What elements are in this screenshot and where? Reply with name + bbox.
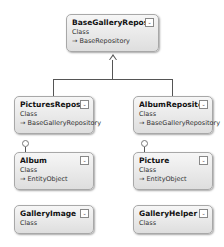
collapse-toggle-icon[interactable]: ⌄ xyxy=(80,100,89,109)
class-kind: Class xyxy=(20,166,88,175)
inheritance-arrow-icon xyxy=(109,54,117,60)
class-kind: Class xyxy=(139,110,207,119)
class-base: → BaseGalleryRepository xyxy=(139,119,207,128)
class-box-album-repository[interactable]: AlbumRepository Class → BaseGalleryRepos… xyxy=(133,96,213,134)
inheritance-line-right xyxy=(172,79,173,96)
collapse-toggle-icon[interactable]: ⌄ xyxy=(145,18,154,27)
class-name: PicturesReposit... xyxy=(20,100,88,110)
inheritance-line-horizontal xyxy=(53,79,173,80)
collapse-toggle-icon[interactable]: ⌄ xyxy=(80,156,89,165)
inheritance-line-stem xyxy=(112,59,113,79)
class-box-picture[interactable]: Picture Class → EntityObject ⌄ xyxy=(133,152,213,190)
class-name: AlbumRepository xyxy=(139,100,207,110)
class-box-base-gallery-repository[interactable]: BaseGalleryRepository Class → BaseReposi… xyxy=(66,14,159,52)
collapse-toggle-icon[interactable]: ⌄ xyxy=(199,209,208,218)
class-box-pictures-repository[interactable]: PicturesReposit... Class → BaseGalleryRe… xyxy=(14,96,94,134)
class-name: Picture xyxy=(139,156,207,166)
interface-lollipop-icon xyxy=(22,140,29,147)
class-name: Album xyxy=(20,156,88,166)
class-name: GalleryHelper xyxy=(139,209,207,219)
collapse-toggle-icon[interactable]: ⌄ xyxy=(80,209,89,218)
class-base: → BaseRepository xyxy=(72,37,153,46)
class-base: → EntityObject xyxy=(20,175,88,184)
class-base: → EntityObject xyxy=(139,175,207,184)
interface-lollipop-icon xyxy=(141,140,148,147)
class-name: BaseGalleryRepository xyxy=(72,18,153,28)
class-name: GalleryImage xyxy=(20,209,88,219)
collapse-toggle-icon[interactable]: ⌄ xyxy=(199,156,208,165)
class-box-gallery-image[interactable]: GalleryImage Class ⌄ xyxy=(14,205,94,234)
collapse-toggle-icon[interactable]: ⌄ xyxy=(199,100,208,109)
class-box-gallery-helper[interactable]: GalleryHelper Class ⌄ xyxy=(133,205,213,234)
class-kind: Class xyxy=(20,110,88,119)
class-kind: Class xyxy=(139,219,207,228)
class-kind: Class xyxy=(72,28,153,37)
class-kind: Class xyxy=(20,219,88,228)
class-box-album[interactable]: Album Class → EntityObject ⌄ xyxy=(14,152,94,190)
class-kind: Class xyxy=(139,166,207,175)
class-base: → BaseGalleryRepository xyxy=(20,119,88,128)
inheritance-line-left xyxy=(53,79,54,96)
